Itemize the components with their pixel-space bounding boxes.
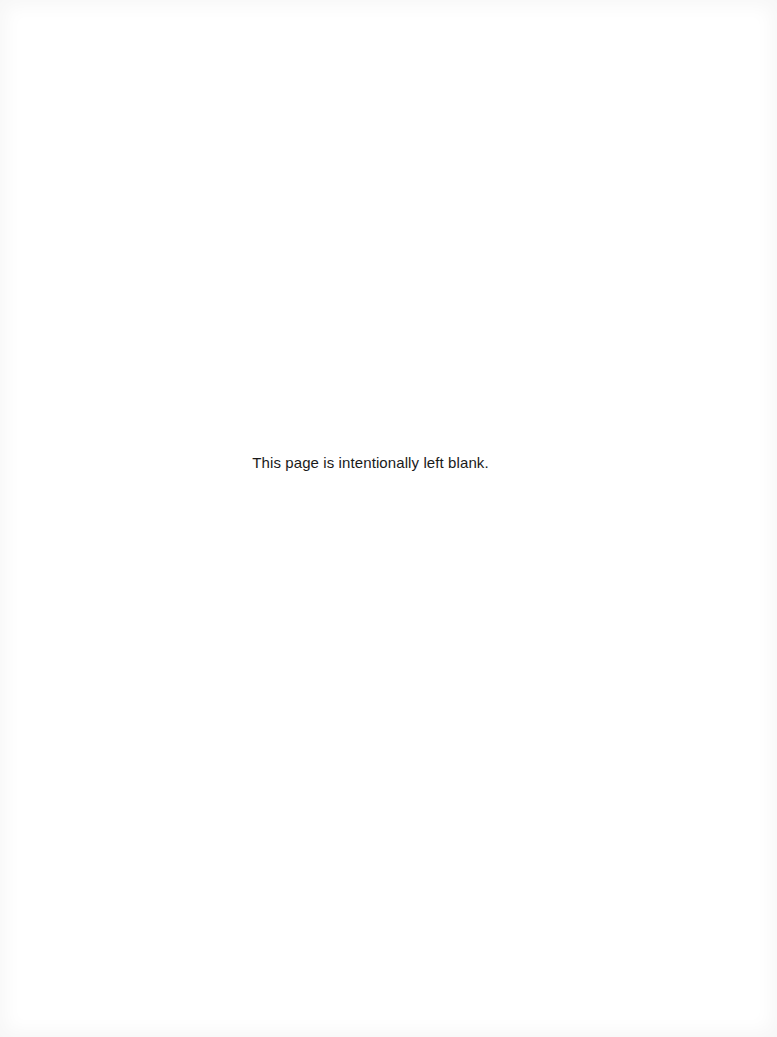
blank-page-notice: This page is intentionally left blank. <box>0 454 741 471</box>
document-page: This page is intentionally left blank. <box>0 0 777 1037</box>
